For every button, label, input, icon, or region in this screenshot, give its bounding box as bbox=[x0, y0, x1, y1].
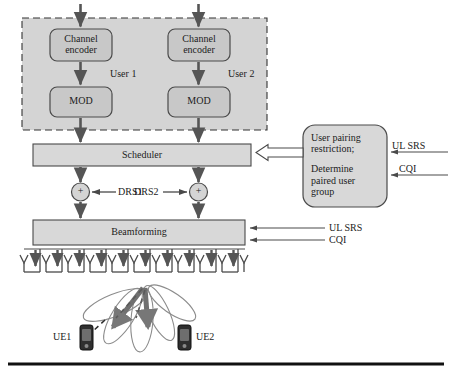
mod-1-label: MOD bbox=[50, 95, 112, 106]
pairing-cqi-label: CQI bbox=[399, 163, 416, 174]
antenna-element bbox=[196, 249, 216, 272]
antenna-element bbox=[42, 249, 62, 272]
ue-2-label: UE2 bbox=[196, 331, 214, 342]
pairing-ulsrs-label: UL SRS bbox=[392, 140, 425, 151]
pairing-to-scheduler-block-arrow bbox=[256, 145, 303, 161]
user-2-label: User 2 bbox=[228, 68, 254, 79]
diagram-svg bbox=[0, 0, 452, 378]
antenna-element bbox=[20, 249, 40, 272]
ue-1-device bbox=[80, 325, 93, 350]
main-beam-arrows bbox=[92, 288, 148, 332]
adder-2-symbol: + bbox=[190, 185, 207, 196]
beamforming-label: Beamforming bbox=[33, 226, 245, 237]
antenna-element bbox=[152, 249, 172, 272]
antenna-element bbox=[174, 249, 194, 272]
channel-encoder-2-label: Channel encoder bbox=[168, 33, 230, 55]
beamforming-cqi-label: CQI bbox=[329, 234, 346, 245]
pairing-box-text: User pairing restriction; Determine pair… bbox=[311, 132, 361, 197]
antenna-element bbox=[108, 249, 128, 272]
user-1-label: User 1 bbox=[110, 68, 136, 79]
ue-1-label: UE1 bbox=[53, 331, 71, 342]
antenna-element bbox=[130, 249, 150, 272]
antenna-array-group bbox=[20, 249, 248, 272]
beamforming-ulsrs-label: UL SRS bbox=[329, 222, 362, 233]
channel-encoder-1-label: Channel encoder bbox=[50, 33, 112, 55]
adder-1-symbol: + bbox=[72, 185, 89, 196]
drs2-label: DRS2 bbox=[134, 186, 158, 197]
antenna-element bbox=[86, 249, 106, 272]
pairing-box-spacer bbox=[311, 154, 361, 163]
ue-2-device bbox=[178, 325, 191, 350]
antenna-element bbox=[64, 249, 84, 272]
mod-2-label: MOD bbox=[168, 95, 230, 106]
antenna-element bbox=[218, 249, 238, 272]
diagram-canvas: Channel encoder Channel encoder MOD MOD … bbox=[0, 0, 452, 378]
antenna-element bbox=[240, 255, 248, 272]
scheduler-label: Scheduler bbox=[33, 149, 251, 160]
